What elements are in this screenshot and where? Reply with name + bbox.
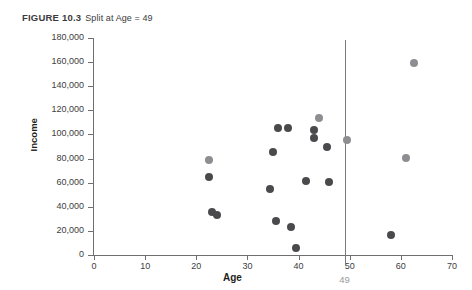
x-tick bbox=[350, 255, 351, 260]
data-point bbox=[205, 156, 213, 164]
x-tick-label: 70 bbox=[437, 262, 467, 271]
data-point bbox=[272, 217, 280, 225]
y-tick-label: 120,000 bbox=[32, 105, 84, 114]
data-point bbox=[287, 223, 295, 231]
y-tick-label: 20,000 bbox=[32, 226, 84, 235]
x-tick bbox=[299, 255, 300, 260]
y-tick-label: 100,000 bbox=[32, 129, 84, 138]
data-point bbox=[274, 124, 282, 132]
y-tick bbox=[88, 231, 93, 232]
x-tick-label: 40 bbox=[284, 262, 314, 271]
y-tick bbox=[88, 62, 93, 63]
data-point bbox=[402, 154, 410, 162]
x-tick bbox=[94, 255, 95, 260]
y-tick bbox=[88, 38, 93, 39]
x-tick bbox=[145, 255, 146, 260]
y-tick-label: 60,000 bbox=[32, 178, 84, 187]
x-axis-title: Age bbox=[223, 273, 242, 283]
x-tick bbox=[401, 255, 402, 260]
y-tick bbox=[88, 86, 93, 87]
y-tick-label: 80,000 bbox=[32, 154, 84, 163]
y-tick-label: 140,000 bbox=[32, 81, 84, 90]
y-tick-label: 40,000 bbox=[32, 202, 84, 211]
y-tick bbox=[88, 134, 93, 135]
y-tick bbox=[88, 255, 93, 256]
y-axis-title: Income bbox=[29, 95, 39, 175]
x-tick-label: 60 bbox=[386, 262, 416, 271]
x-tick-label: 50 bbox=[335, 262, 365, 271]
figure-container: FIGURE 10.3Split at Age = 49 020,00040,0… bbox=[0, 0, 472, 290]
scatter-plot: 020,00040,00060,00080,000100,000120,0001… bbox=[0, 0, 472, 290]
x-tick bbox=[196, 255, 197, 260]
y-axis-line bbox=[93, 38, 94, 256]
y-tick bbox=[88, 207, 93, 208]
x-tick-label: 20 bbox=[181, 262, 211, 271]
data-point bbox=[410, 59, 418, 67]
data-point bbox=[284, 124, 292, 132]
data-point bbox=[310, 126, 318, 134]
data-point bbox=[310, 134, 318, 142]
data-point bbox=[292, 244, 300, 252]
data-point bbox=[323, 143, 331, 151]
data-point bbox=[387, 231, 395, 239]
y-tick-label: 180,000 bbox=[32, 33, 84, 42]
data-point bbox=[343, 136, 351, 144]
data-point bbox=[213, 211, 221, 219]
data-point bbox=[302, 177, 310, 185]
x-tick-label: 30 bbox=[232, 262, 262, 271]
x-tick bbox=[452, 255, 453, 260]
x-axis-line bbox=[93, 255, 453, 256]
y-tick-label: 160,000 bbox=[32, 57, 84, 66]
data-point bbox=[205, 173, 213, 181]
split-line bbox=[345, 40, 346, 265]
data-point bbox=[315, 114, 323, 122]
y-tick bbox=[88, 183, 93, 184]
data-point bbox=[269, 148, 277, 156]
split-line-label: 49 bbox=[333, 275, 357, 285]
y-tick bbox=[88, 159, 93, 160]
x-tick-label: 0 bbox=[79, 262, 109, 271]
x-tick bbox=[247, 255, 248, 260]
y-tick-label: 0 bbox=[32, 250, 84, 259]
data-point bbox=[325, 178, 333, 186]
x-tick-label: 10 bbox=[130, 262, 160, 271]
y-tick bbox=[88, 110, 93, 111]
data-point bbox=[266, 185, 274, 193]
